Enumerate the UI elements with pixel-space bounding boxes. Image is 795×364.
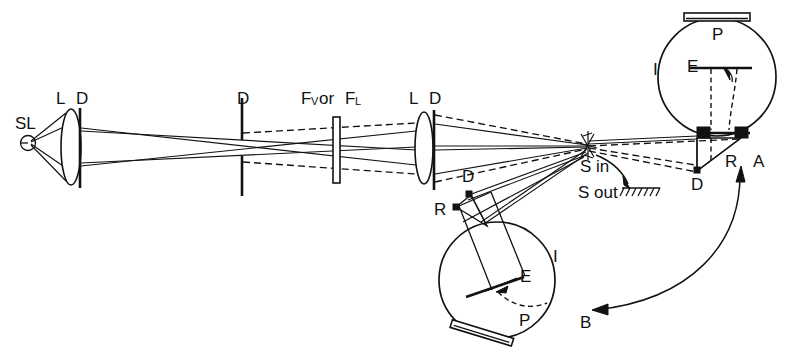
label-sphere-bottom-baffle: E [520,267,531,286]
label-filter-f2: F [345,89,355,108]
label-diaphragm-2: D [237,89,249,108]
label-filter-f1: F [301,89,311,108]
optical-diagram-figure: SL L D D F V or F L L D S in S out P E I… [0,0,795,364]
sphere-bottom-tube-side-b [491,192,525,276]
diagram-canvas: SL L D D F V or F L L D S in S out P E I… [0,0,795,364]
hatch-tick [644,188,648,196]
hatch-tick [620,188,624,196]
label-sample-out: S out [578,183,618,202]
label-mirror-bottom: R [434,200,446,219]
ray [435,147,587,150]
label-filter-sub-v: V [311,95,319,107]
label-source: SL [15,114,36,133]
ray [435,148,587,174]
swap-arrowhead-a [736,166,745,182]
label-position-a: A [753,152,765,171]
hatch-tick [632,188,636,196]
beam-lens1-to-lens2-solid [81,128,416,166]
hatch-tick [656,188,660,196]
hatch-tick [650,188,654,196]
sphere-bottom-detector-plate [450,320,514,346]
swap-arrowhead-b [592,304,608,315]
sphere-top-detector-plate [684,13,750,21]
label-diaphragm-1: D [76,89,88,108]
label-diaphragm-3: D [429,89,441,108]
sample-stage-arrowhead [623,176,630,189]
ray-dashed [435,115,587,144]
label-filter-or: or [319,89,334,108]
label-sample-in: S in [580,157,609,176]
sphere-top-port-block-left [697,127,710,138]
diaphragm-top-marker [694,167,700,173]
beam-lens2-to-sample [435,115,587,182]
ray [435,124,587,145]
label-sphere-top-port: P [712,25,723,44]
sphere-bottom-detector-wrap [450,320,514,346]
label-position-b: B [580,313,591,332]
label-mirror-top: R [725,152,737,171]
label-diaphragm-top: D [691,175,703,194]
sphere-top-port-block-right [735,127,748,138]
mirror-bottom-vertex-marker [453,204,459,210]
label-lens-1: L [56,89,65,108]
lens-2 [415,112,433,184]
hatch-tick [638,188,642,196]
ray [81,131,416,150]
ray [81,147,416,163]
label-filter-sub-l: L [355,95,361,107]
beam-sample-to-bottom-mirror [463,150,588,224]
ray [463,157,584,222]
filter-plate [333,117,340,183]
diaphragm-bottom-marker [466,191,472,197]
beam-sample-to-top-sphere [589,136,741,172]
ray-dashed [243,123,416,133]
label-sphere-bottom-interior: I [553,247,558,266]
source-lamp-group [21,136,36,151]
label-filter-group: F V or F L [301,89,361,108]
lens-1 [61,109,81,185]
label-diaphragm-bottom: D [462,167,474,186]
label-sphere-bottom-port: P [519,311,530,330]
label-sphere-top-interior: I [653,60,658,79]
sphere-bottom-internal-ray [498,292,547,306]
label-sphere-top-baffle: E [687,57,698,76]
ray-dashed [243,162,416,174]
label-lens-2: L [409,89,418,108]
